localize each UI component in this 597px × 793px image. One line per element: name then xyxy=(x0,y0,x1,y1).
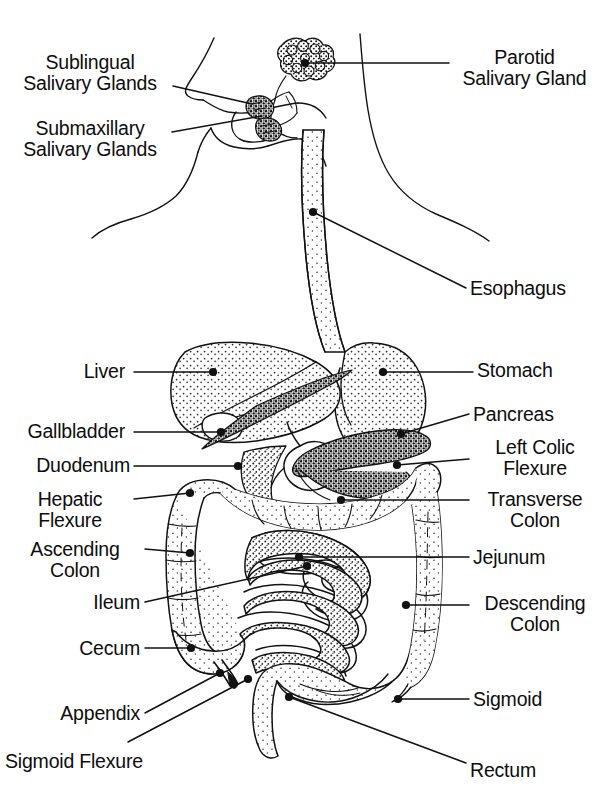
dot-duodenum xyxy=(234,462,242,470)
dot-sigmoid xyxy=(394,695,402,703)
leader-esophagus xyxy=(313,212,466,288)
dot-pancreas xyxy=(397,430,405,438)
leader-sigmoid-flexure xyxy=(128,679,248,742)
dot-left-colic xyxy=(393,461,401,469)
dot-gallbladder xyxy=(217,428,225,436)
submaxillary-gland xyxy=(256,118,282,141)
label-esophagus: Esophagus xyxy=(470,278,597,299)
dot-jejunum xyxy=(295,553,303,561)
label-gallbladder: Gallbladder xyxy=(10,421,125,442)
dot-sigmoid-flexure xyxy=(244,675,252,683)
small-intestine xyxy=(238,531,370,682)
dot-esophagus xyxy=(309,208,317,216)
label-parotid-salivary-gland: Parotid Salivary Gland xyxy=(452,47,597,89)
esophagus xyxy=(302,130,345,352)
leader-rectum xyxy=(289,697,466,763)
label-jejunum: Jejunum xyxy=(473,547,593,568)
sigmoid-rectum xyxy=(253,664,411,758)
dot-ascending xyxy=(186,549,194,557)
dot-descending xyxy=(402,601,410,609)
label-ascending-colon: Ascending Colon xyxy=(10,539,140,581)
label-submaxillary-salivary-glands: Submaxillary Salivary Glands xyxy=(8,118,172,160)
label-appendix: Appendix xyxy=(10,703,140,724)
label-descending-colon: Descending Colon xyxy=(473,593,597,635)
dot-appendix xyxy=(216,669,224,677)
label-pancreas: Pancreas xyxy=(473,404,593,425)
label-stomach: Stomach xyxy=(477,360,597,381)
leader-sublingual xyxy=(173,86,252,104)
leader-submaxillary xyxy=(172,116,262,132)
label-cecum: Cecum xyxy=(10,638,140,659)
dot-rectum xyxy=(285,693,293,701)
label-sigmoid: Sigmoid xyxy=(473,689,593,710)
label-liver: Liver xyxy=(10,361,125,382)
label-rectum: Rectum xyxy=(470,760,590,781)
parotid-gland xyxy=(271,38,335,124)
label-ileum: Ileum xyxy=(10,592,140,613)
dot-liver xyxy=(209,368,217,376)
dot-stomach xyxy=(379,368,387,376)
label-sublingual-salivary-glands: Sublingual Salivary Glands xyxy=(8,52,172,94)
digestive-system-diagram: Sublingual Salivary GlandsSubmaxillary S… xyxy=(0,0,597,793)
label-left-colic-flexure: Left Colic Flexure xyxy=(473,437,597,479)
dot-transverse xyxy=(337,496,345,504)
label-sigmoid-flexure: Sigmoid Flexure xyxy=(5,751,205,772)
dot-hepatic xyxy=(186,489,194,497)
dot-ileum xyxy=(303,562,311,570)
label-duodenum: Duodenum xyxy=(10,455,130,476)
dot-parotid xyxy=(301,59,309,67)
label-hepatic-flexure: Hepatic Flexure xyxy=(10,489,130,531)
dot-cecum xyxy=(187,644,195,652)
leader-appendix xyxy=(145,673,220,713)
label-transverse-colon: Transverse Colon xyxy=(473,489,597,531)
